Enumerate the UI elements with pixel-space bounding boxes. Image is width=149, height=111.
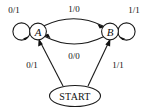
state-node-a[interactable]: A (30, 23, 47, 40)
transition-a-to-b-label: 1/0 (68, 4, 80, 14)
transition-start-to-a-path (40, 41, 64, 87)
transition-b-to-a (43, 34, 104, 44)
transition-self-loop-a (13, 23, 30, 40)
start-node-label: START (59, 91, 90, 102)
state-node-b[interactable]: B (102, 23, 119, 40)
transition-start-to-b-label: 1/1 (112, 60, 124, 70)
state-transition-diagram: A B START 0/1 1/1 1/0 0/0 0/1 1/1 (0, 0, 149, 111)
diagram-canvas: A B START 0/1 1/1 1/0 0/0 0/1 1/1 (0, 0, 149, 111)
transition-start-to-a-label: 0/1 (26, 60, 38, 70)
transition-self-loop-b (118, 23, 135, 40)
self-loop-b-label: 1/1 (128, 5, 140, 15)
self-loop-a-label: 0/1 (8, 5, 20, 15)
state-a-label: A (34, 26, 42, 38)
transition-b-to-a-path (45, 37, 104, 45)
transition-start-to-a (38, 39, 63, 86)
start-node[interactable]: START (50, 86, 101, 107)
transition-a-to-b (44, 19, 105, 29)
transition-b-to-a-label: 0/0 (68, 51, 80, 61)
transition-start-to-b (88, 39, 110, 86)
state-b-label: B (107, 26, 114, 38)
transition-start-to-b-path (88, 41, 110, 87)
transition-a-to-b-path (44, 19, 104, 26)
